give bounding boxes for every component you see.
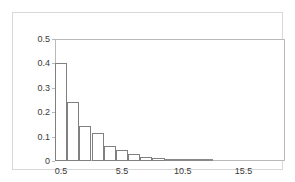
x-axis-tick-label: 10.5 — [163, 166, 203, 176]
y-axis-tick-label: 0.2 — [16, 108, 50, 117]
histogram-bar — [116, 150, 128, 161]
x-axis-tick-label: 0.5 — [41, 166, 81, 176]
chart-title — [0, 0, 295, 6]
x-axis-tick-label: 5.5 — [102, 166, 142, 176]
y-axis: 00.10.20.30.40.5 — [13, 13, 55, 171]
y-axis-tick-label: 0.5 — [16, 35, 50, 44]
chart-panel: 00.10.20.30.40.5 0.55.510.515.5 — [12, 12, 283, 170]
y-axis-tick-label: 0.1 — [16, 133, 50, 142]
histogram-bar — [55, 63, 67, 161]
chart-figure: 00.10.20.30.40.5 0.55.510.515.5 — [0, 0, 295, 182]
y-axis-tick-label: 0.3 — [16, 84, 50, 93]
x-axis-tick-label: 15.5 — [224, 166, 264, 176]
x-axis: 0.55.510.515.5 — [13, 161, 284, 181]
histogram-bar — [67, 102, 79, 161]
histogram-bar — [128, 154, 140, 161]
histogram-bar — [104, 146, 116, 161]
histogram-bar — [79, 126, 91, 161]
y-axis-tick-label: 0.4 — [16, 59, 50, 68]
histogram-bar — [92, 133, 104, 161]
bars-layer — [55, 39, 285, 161]
